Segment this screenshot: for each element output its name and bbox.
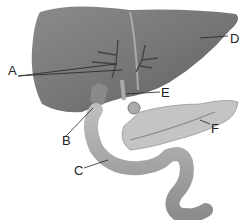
label-e: E [161,86,170,99]
label-b: B [62,134,71,147]
label-f: F [211,122,219,135]
liver [32,6,238,112]
anatomy-diagram: A B C D E F [0,0,242,220]
organ-illustration [0,0,242,220]
label-c: C [74,164,83,177]
label-a: A [8,64,17,77]
label-d: D [230,32,239,45]
